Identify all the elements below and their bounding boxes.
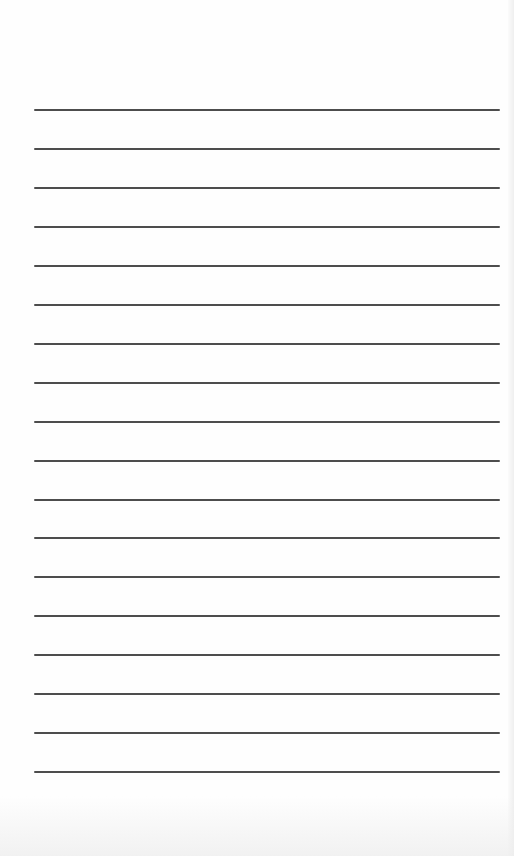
ruled-line — [34, 187, 500, 189]
ruled-line — [34, 771, 500, 773]
ruled-line — [34, 226, 500, 228]
ruled-line — [34, 732, 500, 734]
ruled-line — [34, 499, 500, 501]
ruled-line — [34, 693, 500, 695]
ruled-line — [34, 304, 500, 306]
ruled-line — [34, 109, 500, 111]
ruled-line — [34, 576, 500, 578]
ruled-line — [34, 537, 500, 539]
ruled-line — [34, 460, 500, 462]
page-edge-shadow — [508, 0, 514, 856]
lined-paper-page — [0, 0, 514, 856]
page-bottom-shading — [0, 796, 514, 856]
ruled-line — [34, 654, 500, 656]
ruled-line — [34, 148, 500, 150]
ruled-line — [34, 382, 500, 384]
ruled-line — [34, 265, 500, 267]
ruled-line — [34, 421, 500, 423]
ruled-line — [34, 615, 500, 617]
ruled-line — [34, 343, 500, 345]
